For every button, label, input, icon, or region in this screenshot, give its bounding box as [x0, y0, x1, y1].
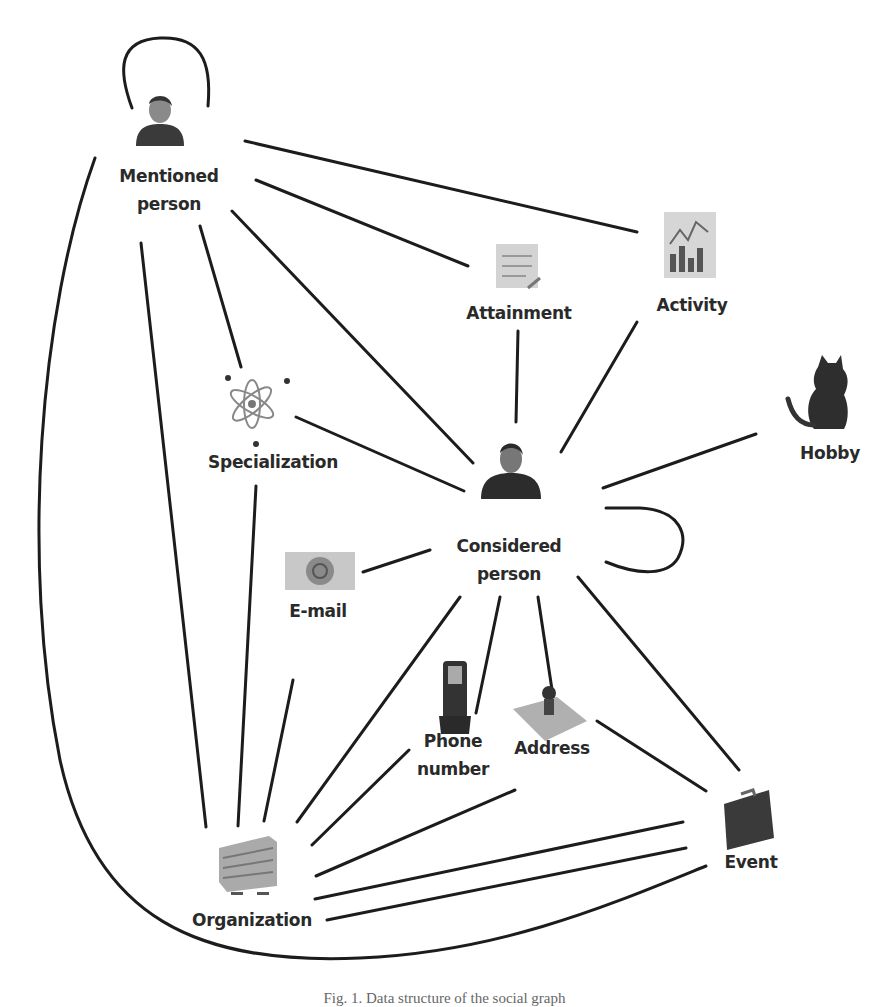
edge-mentioned-considered — [232, 211, 473, 463]
person-icon — [136, 96, 184, 146]
edge-email-considered — [363, 550, 430, 572]
person-icon — [481, 444, 541, 500]
node-label-email: E-mail — [289, 597, 347, 625]
chart-icon — [664, 212, 716, 278]
edge-hobby-considered — [603, 434, 756, 488]
node-label-activity: Activity — [657, 291, 728, 319]
node-label-address: Address — [514, 734, 590, 762]
map-pin-icon — [513, 686, 587, 741]
node-label-event: Event — [725, 848, 778, 876]
label-line: person — [119, 190, 218, 218]
edge-considered-self — [606, 508, 683, 572]
cat-icon — [788, 355, 848, 429]
certificate-icon — [496, 244, 540, 288]
building-icon — [219, 836, 277, 895]
node-label-considered-person: Considered person — [457, 532, 562, 588]
edge-phone-organization — [312, 750, 409, 845]
node-label-organization: Organization — [192, 906, 312, 934]
label-line: Considered — [457, 532, 562, 560]
edge-considered-event — [578, 577, 739, 770]
edge-considered-phone — [476, 597, 500, 713]
label-line: person — [457, 560, 562, 588]
node-label-specialization: Specialization — [208, 448, 338, 476]
node-label-attainment: Attainment — [466, 299, 571, 327]
edge-considered-organization — [297, 597, 460, 822]
node-label-phone-number: Phone number — [417, 727, 489, 783]
node-label-mentioned-person: Mentioned person — [119, 162, 218, 218]
envelope-icon — [285, 552, 355, 590]
briefcase-icon — [724, 790, 774, 850]
atom-icon — [225, 375, 290, 447]
edge-mentioned-organization — [141, 243, 206, 827]
node-label-hobby: Hobby — [800, 439, 860, 467]
label-line: Mentioned — [119, 162, 218, 190]
edge-mentioned-activity — [245, 141, 637, 232]
figure-caption: Fig. 1. Data structure of the social gra… — [0, 990, 889, 1007]
phone-icon — [439, 661, 471, 734]
label-line: number — [417, 755, 489, 783]
label-line: Phone — [417, 727, 489, 755]
edge-mentioned-attainment — [256, 180, 468, 266]
edge-attainment-considered — [516, 331, 518, 422]
edge-address-event — [597, 721, 706, 791]
edge-email-organization — [264, 680, 293, 821]
edge-specialization-organization — [238, 486, 256, 826]
edge-mentioned-specialization — [200, 226, 241, 367]
edge-activity-considered — [561, 322, 637, 452]
